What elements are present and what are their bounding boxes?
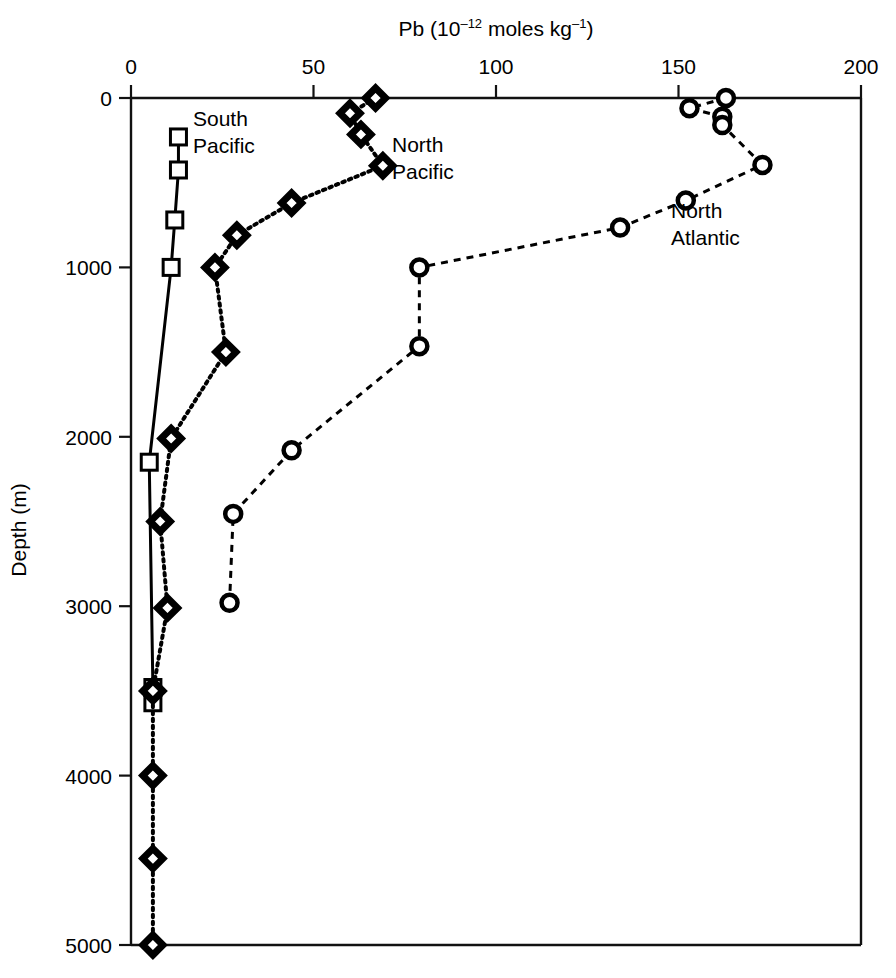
marker-circle — [411, 338, 427, 354]
y-tick-label: 4000 — [65, 765, 112, 788]
series-north-atlantic — [222, 90, 771, 611]
x-tick-label: 200 — [843, 55, 878, 78]
x-tick-label: 150 — [661, 55, 696, 78]
y-tick-label: 0 — [100, 87, 112, 110]
x-tick-label: 50 — [302, 55, 325, 78]
y-tick-label: 3000 — [65, 595, 112, 618]
label-north-pacific-line2: Pacific — [392, 160, 454, 183]
label-south-pacific-line1: South — [193, 107, 248, 130]
marker-circle — [718, 90, 734, 106]
marker-circle — [225, 506, 241, 522]
x-tick-label: 100 — [478, 55, 513, 78]
marker-circle — [284, 442, 300, 458]
y-tick-label: 2000 — [65, 426, 112, 449]
marker-diamond — [205, 257, 225, 277]
y-tick-label: 5000 — [65, 934, 112, 957]
series-line — [153, 98, 383, 945]
y-tick-label: 1000 — [65, 256, 112, 279]
x-axis: 050100150200 — [125, 55, 878, 98]
x-tick-label: 0 — [125, 55, 137, 78]
marker-diamond — [227, 225, 247, 245]
marker-square — [170, 129, 186, 145]
marker-diamond — [158, 598, 178, 618]
marker-circle — [681, 100, 697, 116]
marker-diamond — [143, 766, 163, 786]
label-north-atlantic: NorthAtlantic — [671, 199, 740, 249]
marker-diamond — [143, 935, 163, 955]
marker-diamond — [161, 428, 181, 448]
pb-depth-profile-figure: Pb (10‒12 moles kg‒1)0501001502000100020… — [0, 0, 896, 978]
marker-diamond — [143, 849, 163, 869]
marker-diamond — [150, 512, 170, 532]
chart-canvas: Pb (10‒12 moles kg‒1)0501001502000100020… — [0, 0, 896, 978]
y-axis: 010002000300040005000 — [65, 87, 131, 957]
label-south-pacific-line2: Pacific — [193, 134, 255, 157]
label-north-atlantic-line2: Atlantic — [671, 226, 740, 249]
marker-square — [170, 162, 186, 178]
marker-diamond — [216, 342, 236, 362]
marker-diamond — [143, 681, 163, 701]
chart-title-text: Pb (10‒12 moles kg‒1) — [399, 16, 594, 40]
label-north-pacific-line1: North — [392, 133, 443, 156]
marker-diamond — [373, 156, 393, 176]
marker-square — [141, 454, 157, 470]
marker-diamond — [366, 88, 386, 108]
marker-diamond — [351, 124, 371, 144]
marker-square — [163, 259, 179, 275]
marker-circle — [411, 259, 427, 275]
marker-circle — [612, 220, 628, 236]
marker-diamond — [340, 103, 360, 123]
label-north-pacific: NorthPacific — [392, 133, 454, 183]
marker-diamond — [282, 193, 302, 213]
series-line — [230, 98, 763, 603]
marker-circle — [714, 117, 730, 133]
label-south-pacific: SouthPacific — [193, 107, 255, 157]
chart-title: Pb (10‒12 moles kg‒1) — [399, 16, 594, 40]
marker-square — [167, 212, 183, 228]
marker-circle — [222, 595, 238, 611]
label-north-atlantic-line1: North — [671, 199, 722, 222]
marker-circle — [754, 157, 770, 173]
y-axis-label: Depth (m) — [7, 483, 30, 576]
